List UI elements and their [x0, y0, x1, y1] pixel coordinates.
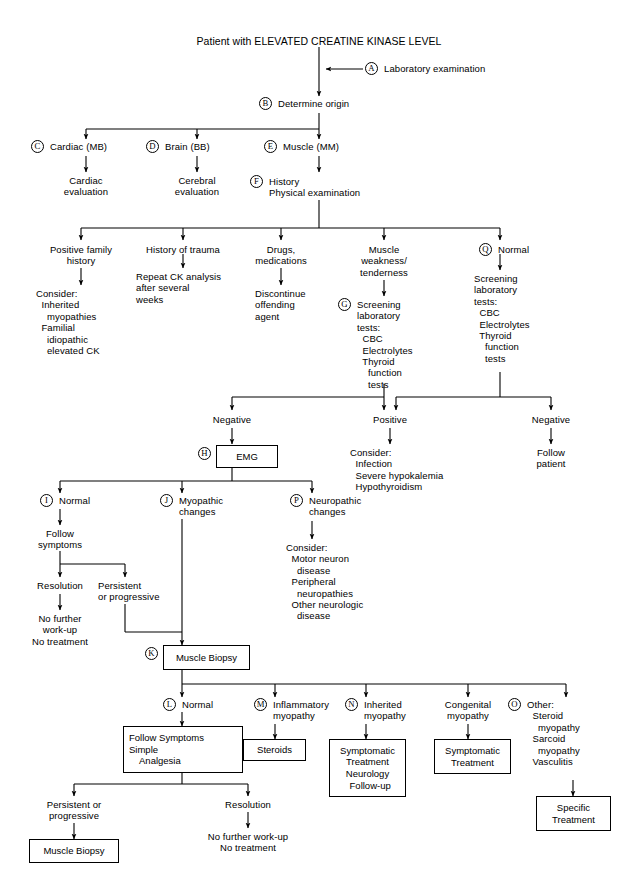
node-cardiac-mb: Cardiac (MB)	[50, 141, 107, 152]
marker-m: M	[254, 698, 267, 711]
node-normal-i: Normal	[59, 495, 90, 506]
node-no-further-workup-top: No further work-up No treatment	[32, 613, 88, 647]
node-discontinue-offending-agent: Discontinue offending agent	[255, 288, 306, 322]
box-emg: EMG	[216, 445, 278, 468]
node-drugs-medications: Drugs, medications	[255, 244, 307, 267]
box-steroids: Steroids	[243, 739, 306, 761]
node-repeat-ck-analysis: Repeat CK analysis after several weeks	[136, 271, 221, 305]
node-cardiac-evaluation: Cardiac evaluation	[64, 175, 108, 198]
marker-o: O	[508, 698, 521, 711]
node-follow-patient: Follow patient	[536, 447, 565, 470]
marker-p: P	[290, 494, 303, 507]
node-other-o: Other: Steroid myopathy Sarcoid myopathy…	[527, 699, 580, 767]
node-resolution-top: Resolution	[37, 580, 83, 591]
node-history-of-trauma: History of trauma	[146, 244, 220, 255]
node-inflammatory-myopathy: Inflammatory myopathy	[273, 699, 329, 722]
node-positive-middle: Positive	[373, 414, 407, 425]
marker-n: N	[345, 698, 358, 711]
page-title: Patient with ELEVATED CREATINE KINASE LE…	[196, 35, 441, 47]
flowchart-canvas: Patient with ELEVATED CREATINE KINASE LE…	[0, 0, 639, 878]
node-cerebral-evaluation: Cerebral evaluation	[175, 175, 219, 198]
marker-b: B	[259, 97, 272, 110]
marker-c: C	[31, 140, 44, 153]
node-negative-right: Negative	[532, 414, 570, 425]
box-symptomatic-treatment-neurology: Symptomatic Treatment Neurology Follow-u…	[329, 739, 406, 797]
node-inherited-myopathy: Inherited myopathy	[364, 699, 406, 722]
node-no-further-workup-bottom: No further work-up No treatment	[208, 831, 288, 854]
box-muscle-biopsy-bottom: Muscle Biopsy	[29, 839, 119, 863]
marker-h: H	[198, 447, 211, 460]
marker-a: A	[365, 62, 378, 75]
node-history-physical-examination: History Physical examination	[269, 176, 360, 199]
marker-f: F	[250, 175, 263, 188]
marker-d: D	[146, 140, 159, 153]
marker-j: J	[160, 494, 173, 507]
marker-i: I	[40, 494, 53, 507]
box-follow-symptoms-simple-analgesia: Follow Symptoms Simple Analgesia	[123, 726, 243, 773]
node-muscle-weakness-tenderness: Muscle weakness/ tenderness	[360, 244, 408, 278]
node-persistent-or-progressive-top: Persistent or progressive	[98, 580, 160, 603]
node-screening-laboratory-tests-q: Screening laboratory tests: CBC Electrol…	[474, 273, 530, 364]
marker-e: E	[264, 140, 277, 153]
node-persistent-or-progressive-bottom: Persistent or progressive	[47, 799, 102, 822]
marker-k: K	[145, 647, 158, 660]
node-follow-symptoms: Follow symptoms	[38, 528, 82, 551]
node-normal-q: Normal	[498, 244, 529, 255]
marker-g: G	[338, 298, 351, 311]
node-congenital-myopathy: Congenital myopathy	[445, 699, 491, 722]
node-resolution-bottom: Resolution	[225, 799, 271, 810]
marker-q: Q	[479, 243, 492, 256]
node-determine-origin: Determine origin	[278, 98, 349, 109]
node-positive-family-history: Positive family history	[50, 244, 112, 267]
box-specific-treatment: Specific Treatment	[536, 796, 611, 831]
node-negative-left: Negative	[213, 414, 251, 425]
node-consider-motor-neuron: Consider: Motor neuron disease Periphera…	[286, 542, 363, 622]
node-consider-inherited-myopathies: Consider: Inherited myopathies Familial …	[36, 288, 100, 356]
node-laboratory-examination: Laboratory examination	[384, 63, 485, 74]
node-myopathic-changes: Myopathic changes	[179, 495, 223, 518]
node-brain-bb: Brain (BB)	[165, 141, 210, 152]
box-muscle-biopsy-k: Muscle Biopsy	[163, 645, 250, 670]
box-symptomatic-treatment: Symptomatic Treatment	[434, 739, 511, 774]
node-muscle-mm: Muscle (MM)	[283, 141, 339, 152]
marker-l: L	[163, 698, 176, 711]
node-consider-infection: Consider: Infection Severe hypokalemia H…	[350, 447, 443, 493]
node-screening-laboratory-tests-g: Screening laboratory tests: CBC Electrol…	[357, 299, 413, 390]
node-normal-l: Normal	[182, 699, 213, 710]
node-neuropathic-changes: Neuropathic changes	[309, 495, 361, 518]
